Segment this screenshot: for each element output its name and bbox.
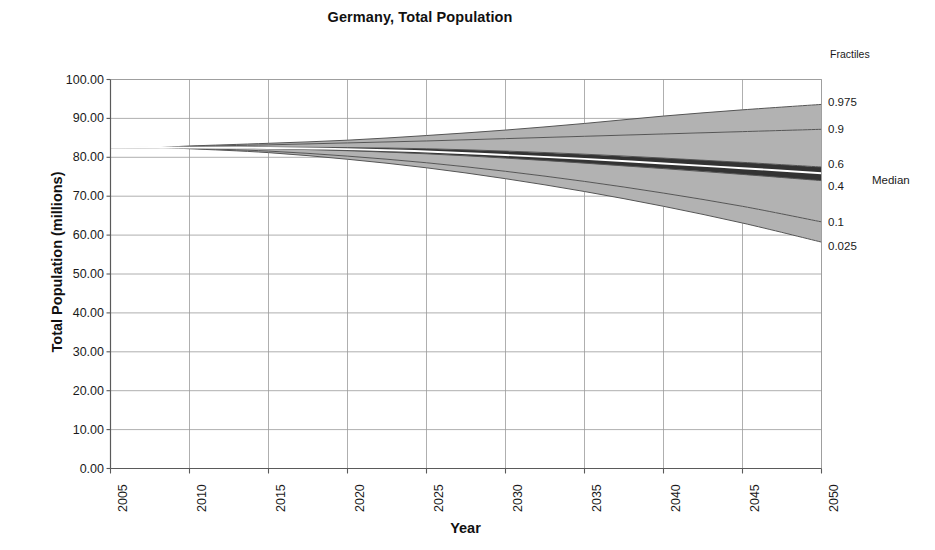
fractile-label-0p6: 0.6 [828, 158, 844, 170]
fractile-labels: 0.9750.90.60.40.10.025 [0, 0, 935, 550]
median-legend-label: Median [872, 174, 910, 186]
fractile-label-0p1: 0.1 [828, 216, 844, 228]
fractile-label-0p025: 0.025 [828, 240, 857, 252]
fractile-label-0p9: 0.9 [828, 123, 844, 135]
fractile-label-0p975: 0.975 [828, 96, 857, 108]
fan-chart-figure: Germany, Total Population Fractiles Tota… [0, 0, 935, 550]
fractile-label-0p4: 0.4 [828, 180, 844, 192]
